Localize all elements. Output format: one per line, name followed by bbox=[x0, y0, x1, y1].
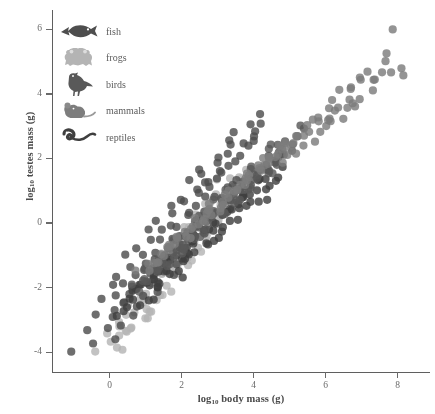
x-tick-4 bbox=[397, 372, 398, 378]
y-tick-1 bbox=[46, 287, 52, 288]
y-tick-0 bbox=[46, 352, 52, 353]
snake-icon bbox=[58, 125, 100, 149]
fish-icon bbox=[58, 19, 100, 43]
scatter-plot-figure: -4-2024602468 log10 testes mass (g) log1… bbox=[0, 0, 435, 414]
y-axis-title-subscript: 10 bbox=[28, 180, 36, 187]
legend-item-birds: birds bbox=[58, 71, 178, 98]
y-tick-label-5: 6 bbox=[18, 23, 42, 33]
x-tick-label-2: 4 bbox=[242, 380, 266, 390]
legend-item-frogs: frogs bbox=[58, 45, 178, 72]
y-axis-title: log10 testes mass (g) bbox=[24, 71, 37, 241]
bird-icon bbox=[58, 72, 100, 96]
legend-label-mammals: mammals bbox=[106, 105, 145, 116]
mouse-icon bbox=[58, 99, 100, 123]
legend-item-reptiles: reptiles bbox=[58, 124, 178, 151]
frog-icon bbox=[58, 46, 100, 70]
x-tick-label-1: 2 bbox=[170, 380, 194, 390]
y-axis-title-rest: testes mass (g) bbox=[24, 112, 35, 180]
legend-label-fish: fish bbox=[106, 26, 121, 37]
legend-label-frogs: frogs bbox=[106, 52, 127, 63]
y-tick-2 bbox=[46, 222, 52, 223]
y-tick-4 bbox=[46, 93, 52, 94]
x-tick-1 bbox=[181, 372, 182, 378]
legend-label-birds: birds bbox=[106, 79, 126, 90]
x-tick-label-0: 0 bbox=[98, 380, 122, 390]
x-tick-3 bbox=[325, 372, 326, 378]
legend: fish frogs birds bbox=[58, 18, 178, 151]
legend-item-fish: fish bbox=[58, 18, 178, 45]
y-tick-label-1: -2 bbox=[18, 282, 42, 292]
y-tick-label-0: -4 bbox=[18, 346, 42, 356]
y-tick-3 bbox=[46, 158, 52, 159]
x-tick-2 bbox=[253, 372, 254, 378]
x-tick-label-3: 6 bbox=[314, 380, 338, 390]
x-axis-title: log10 body mass (g) bbox=[52, 393, 430, 406]
y-axis-title-main: log bbox=[24, 187, 35, 201]
legend-label-reptiles: reptiles bbox=[106, 132, 135, 143]
legend-item-mammals: mammals bbox=[58, 98, 178, 125]
x-tick-0 bbox=[109, 372, 110, 378]
x-axis-title-rest: body mass (g) bbox=[218, 393, 284, 404]
y-tick-5 bbox=[46, 29, 52, 30]
x-axis-title-main: log bbox=[198, 393, 212, 404]
x-tick-label-4: 8 bbox=[386, 380, 410, 390]
y-axis-line bbox=[52, 10, 53, 372]
